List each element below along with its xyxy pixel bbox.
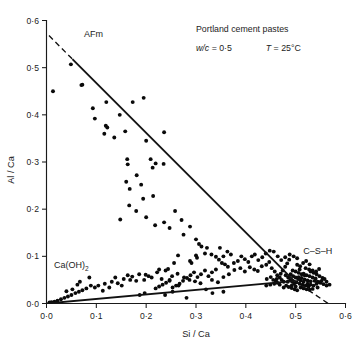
data-point xyxy=(199,281,203,285)
data-point xyxy=(200,244,204,248)
data-point xyxy=(272,250,276,254)
data-point xyxy=(292,254,296,258)
data-point xyxy=(181,279,185,283)
data-point xyxy=(171,286,175,290)
data-point xyxy=(316,286,320,290)
data-point xyxy=(252,268,256,272)
data-point xyxy=(238,266,242,270)
data-point xyxy=(103,282,107,286)
data-point xyxy=(110,280,114,284)
data-point xyxy=(207,274,211,278)
wc-ratio: w/c = 0·5 xyxy=(196,43,232,53)
data-point xyxy=(248,265,252,269)
data-point xyxy=(279,272,283,276)
data-point xyxy=(170,274,174,278)
data-point xyxy=(154,286,158,290)
figure-scatter-plot: 0·00·10·20·30·40·50·60·00·10·20·30·40·50… xyxy=(0,0,358,350)
data-point xyxy=(308,262,312,266)
data-point xyxy=(91,106,95,110)
data-point xyxy=(256,269,260,273)
data-point xyxy=(157,268,161,272)
data-point xyxy=(211,291,215,295)
data-point xyxy=(221,275,225,279)
x-tick-label: 0·6 xyxy=(339,311,352,321)
data-point xyxy=(127,203,131,207)
data-point xyxy=(264,263,268,267)
data-point xyxy=(176,272,180,276)
data-point xyxy=(66,294,70,298)
data-point xyxy=(168,279,172,283)
csh-label: C–S–H xyxy=(303,246,332,256)
data-point xyxy=(78,280,82,284)
data-point xyxy=(89,284,93,288)
data-point xyxy=(267,260,271,264)
data-point xyxy=(134,279,138,283)
data-point xyxy=(260,264,264,268)
data-point xyxy=(304,266,308,270)
data-point xyxy=(96,284,100,288)
data-point xyxy=(177,284,181,288)
data-point xyxy=(107,286,111,290)
data-point xyxy=(217,258,221,262)
data-point xyxy=(124,180,128,184)
data-point xyxy=(93,117,97,121)
data-point xyxy=(317,267,321,271)
data-point xyxy=(87,276,91,280)
data-point xyxy=(268,249,272,253)
y-axis-label: Al / Ca xyxy=(6,155,16,183)
data-point xyxy=(188,225,192,229)
data-point xyxy=(221,254,225,258)
data-point xyxy=(182,233,186,237)
data-point xyxy=(279,258,283,262)
caoh2-label: Ca(OH)2 xyxy=(54,260,89,272)
data-point xyxy=(70,287,74,291)
data-point xyxy=(283,265,287,269)
data-point xyxy=(128,278,132,282)
data-point xyxy=(126,273,130,277)
y-tick-label: 0·0 xyxy=(27,299,40,309)
data-point xyxy=(250,254,254,258)
data-point xyxy=(276,254,280,258)
data-point xyxy=(325,280,329,284)
data-point xyxy=(269,275,273,279)
data-point xyxy=(116,281,120,285)
data-point xyxy=(102,132,106,136)
data-point xyxy=(194,237,198,241)
data-point xyxy=(282,286,286,290)
data-point xyxy=(192,270,196,274)
data-point xyxy=(210,278,214,282)
data-point xyxy=(173,209,177,213)
data-point xyxy=(64,289,68,293)
data-point xyxy=(112,136,116,140)
data-point xyxy=(126,162,130,166)
data-point xyxy=(210,253,214,257)
data-point xyxy=(151,166,155,170)
data-point xyxy=(162,162,166,166)
data-point xyxy=(227,272,231,276)
data-point xyxy=(80,83,84,87)
data-point xyxy=(77,290,81,294)
data-point xyxy=(304,259,308,263)
data-point xyxy=(168,226,172,230)
data-point xyxy=(270,266,274,270)
data-point xyxy=(122,277,126,281)
data-point xyxy=(265,277,269,281)
data-point xyxy=(172,261,176,265)
data-point xyxy=(311,269,315,273)
y-tick-label: 0·1 xyxy=(27,251,40,261)
data-point xyxy=(149,157,153,161)
caoh2-tieline xyxy=(47,281,296,304)
data-point xyxy=(236,259,240,263)
data-point xyxy=(225,250,229,254)
data-point xyxy=(51,89,55,93)
x-tick-label: 0·3 xyxy=(190,311,203,321)
data-point xyxy=(298,268,302,272)
data-point xyxy=(139,183,143,187)
data-point xyxy=(273,269,277,273)
data-point xyxy=(189,273,193,277)
data-point xyxy=(59,297,63,301)
sample-title: Portland cement pastes xyxy=(196,24,289,34)
data-point xyxy=(144,215,148,219)
data-point xyxy=(229,253,233,257)
x-tick-label: 0·2 xyxy=(140,311,153,321)
